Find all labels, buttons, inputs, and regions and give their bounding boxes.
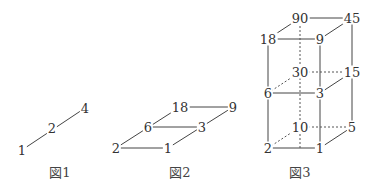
fig3-caption: 図3 bbox=[289, 166, 310, 179]
fig3-node-9: 9 bbox=[315, 33, 325, 46]
fig3-node-1: 1 bbox=[315, 142, 325, 155]
fig3-node-15: 15 bbox=[343, 66, 362, 79]
fig2-node-9: 9 bbox=[228, 101, 238, 114]
fig3-node-30: 30 bbox=[291, 66, 310, 79]
fig1-node-1: 1 bbox=[17, 144, 27, 157]
fig3-node-90: 90 bbox=[291, 12, 310, 25]
fig1-node-2: 2 bbox=[47, 122, 57, 135]
fig3-node-10: 10 bbox=[291, 121, 310, 134]
fig3-node-6: 6 bbox=[263, 87, 273, 100]
fig2-node-3: 3 bbox=[197, 121, 207, 134]
fig3-node-45: 45 bbox=[343, 12, 362, 25]
fig2-node-1: 1 bbox=[163, 142, 173, 155]
fig1-node-4: 4 bbox=[80, 102, 90, 115]
fig3-node-5: 5 bbox=[347, 121, 357, 134]
fig3-node-2: 2 bbox=[263, 142, 273, 155]
fig3-node-3: 3 bbox=[315, 87, 325, 100]
fig2-node-2: 2 bbox=[111, 142, 121, 155]
fig2-caption: 図2 bbox=[169, 166, 190, 179]
fig2-node-18: 18 bbox=[171, 101, 190, 114]
fig3-node-18: 18 bbox=[259, 33, 278, 46]
fig1-caption: 図1 bbox=[49, 166, 70, 179]
figure-3-hidden-edges bbox=[268, 18, 352, 150]
fig2-node-6: 6 bbox=[143, 121, 153, 134]
figure-3-solid-edges bbox=[268, 18, 352, 148]
